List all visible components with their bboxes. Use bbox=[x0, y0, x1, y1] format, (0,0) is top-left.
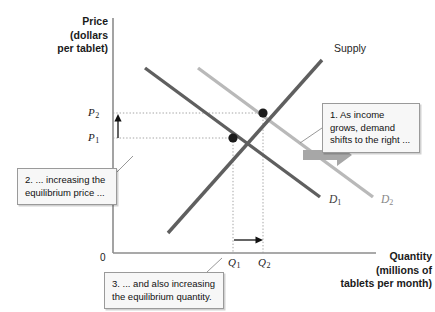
equilibrium-point-2 bbox=[258, 108, 267, 117]
y-tick-p2-subscript: 2 bbox=[95, 111, 100, 120]
quantity-increase-arrow bbox=[234, 236, 263, 243]
y-tick-p1: P1 bbox=[88, 131, 99, 147]
x-tick-q2: Q2 bbox=[258, 256, 270, 272]
y-axis-label: Price (dollars per tablet) bbox=[18, 15, 108, 56]
x-tick-q1: Q1 bbox=[228, 256, 240, 272]
supply-curve-label: Supply bbox=[334, 42, 366, 54]
x-tick-q2-subscript: 2 bbox=[266, 261, 271, 270]
x-tick-q1-text: Q bbox=[228, 256, 236, 268]
callout-leaders bbox=[117, 128, 322, 272]
y-tick-p2-text: P bbox=[88, 106, 95, 118]
supply-curve bbox=[168, 60, 322, 233]
demand-curve-1 bbox=[145, 68, 320, 197]
demand-curve-1-label-subscript: 1 bbox=[337, 198, 341, 207]
x-tick-q1-subscript: 1 bbox=[236, 261, 241, 270]
callout-price-increase: 2. ... increasing the equilibrium price … bbox=[17, 168, 117, 205]
leader-callout-2 bbox=[117, 156, 133, 172]
y-tick-p1-subscript: 1 bbox=[95, 136, 100, 145]
demand-curve-2-label-subscript: 2 bbox=[389, 198, 393, 207]
price-increase-arrow bbox=[114, 114, 121, 138]
x-axis-label: Quantity (millions of tablets per month) bbox=[320, 250, 432, 291]
demand-curve-1-label: D1 bbox=[329, 193, 341, 209]
y-tick-p1-text: P bbox=[88, 131, 95, 143]
leader-callout-3 bbox=[207, 258, 222, 272]
equilibrium-point-1 bbox=[228, 133, 237, 142]
demand-curve-2-label: D2 bbox=[381, 193, 393, 209]
x-tick-q2-text: Q bbox=[258, 256, 266, 268]
origin-label: 0 bbox=[100, 252, 106, 264]
leader-callout-1 bbox=[300, 128, 322, 143]
supply-demand-figure: Price (dollars per tablet) Quantity (mil… bbox=[0, 0, 435, 312]
callout-income-growth: 1. As income grows, demand shifts to the… bbox=[322, 103, 420, 153]
y-tick-p2: P2 bbox=[88, 106, 99, 122]
callout-quantity-increase: 3. ... and also increasing the equilibri… bbox=[104, 272, 224, 309]
guide-lines bbox=[113, 113, 263, 253]
